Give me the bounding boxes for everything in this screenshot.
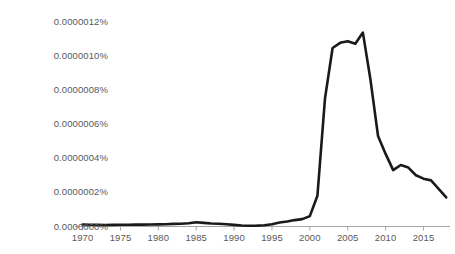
x-axis-tick-labels: 1970197519801985199019952000200520102015: [0, 232, 455, 252]
y-axis-tick-label: 0.0000010%: [4, 50, 108, 61]
x-axis-tick-marks: [83, 227, 424, 231]
x-axis-tick-label: 1980: [148, 232, 170, 243]
x-axis-tick-label: 1975: [110, 232, 132, 243]
chart-container: 0.0000000%0.0000002%0.0000004%0.0000006%…: [0, 0, 455, 254]
y-axis-tick-label: 0.0000012%: [4, 16, 108, 27]
y-axis-tick-labels: 0.0000000%0.0000002%0.0000004%0.0000006%…: [0, 0, 108, 254]
x-axis-tick-label: 2005: [337, 232, 359, 243]
x-axis-tick-label: 1990: [223, 232, 245, 243]
y-axis-tick-label: 0.0000008%: [4, 84, 108, 95]
x-axis-tick-label: 2015: [413, 232, 435, 243]
x-axis-tick-label: 2010: [375, 232, 397, 243]
y-axis-tick-label: 0.0000000%: [4, 221, 108, 232]
data-series-group: [83, 33, 447, 226]
x-axis-tick-label: 1995: [261, 232, 283, 243]
x-axis-tick-label: 2000: [299, 232, 321, 243]
x-axis: [75, 227, 450, 231]
y-axis-tick-label: 0.0000002%: [4, 186, 108, 197]
y-axis-tick-label: 0.0000006%: [4, 118, 108, 129]
data-line-frequency: [83, 33, 447, 226]
y-axis-tick-label: 0.0000004%: [4, 152, 108, 163]
x-axis-tick-label: 1970: [72, 232, 94, 243]
x-axis-tick-label: 1985: [185, 232, 207, 243]
